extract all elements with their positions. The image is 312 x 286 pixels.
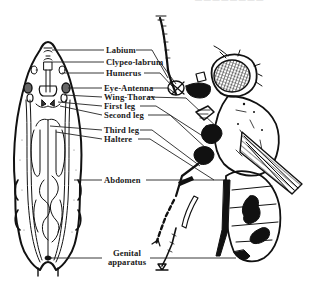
label-labium: Labium: [106, 46, 136, 55]
label-abdomen: Abdomen: [104, 176, 141, 185]
pupa-drawing: [14, 42, 82, 276]
label-haltere: Haltere: [104, 135, 132, 144]
diagram-figure: — — — — — — — —: [0, 0, 312, 286]
label-humerus: Humerus: [106, 69, 141, 78]
label-clypeo-labrum: Clypeo-labrum: [106, 58, 163, 67]
fly-drawing: [152, 16, 302, 270]
label-genital-apparatus: Genital apparatus: [104, 249, 150, 268]
label-second-leg: Second leg: [104, 111, 144, 120]
diagram-artwork: [0, 0, 312, 286]
